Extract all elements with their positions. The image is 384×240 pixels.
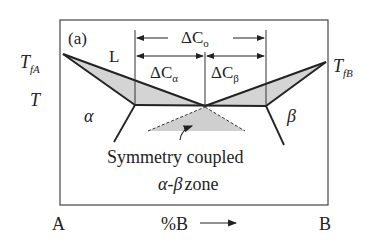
eutectic-line [135,105,266,106]
liquid-label: L [109,47,119,66]
panel-label: (a) [68,29,87,48]
axis-composition-label: %B [161,214,188,234]
zone-caption-line1: Symmetry coupled [107,147,243,167]
delta-c-beta-label: ΔCβ [211,63,239,84]
solvus-a [114,105,135,142]
phase-diagram: (a) L TfA TfB T α β ΔCo ΔCα ΔCβ Symmetry… [0,0,384,240]
delta-c-alpha-label: ΔCα [150,63,178,84]
zone-caption-line2: α-βzone [158,174,218,194]
tfa-label: TfA [20,52,40,75]
tfb-label: TfB [333,56,353,79]
axis-right-label: B [319,214,331,234]
axis-left-label: A [52,214,65,234]
beta-label: β [286,106,296,126]
alpha-label: α [84,106,94,126]
delta-c0-label: ΔCo [181,28,209,49]
temperature-label: T [30,90,42,110]
solvus-b [266,106,284,145]
